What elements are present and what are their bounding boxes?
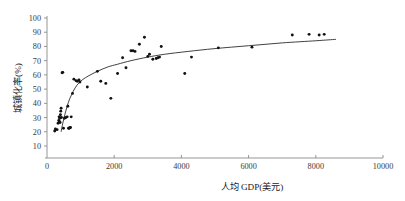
data-point (78, 81, 81, 84)
x-axis-title: 人均 GDP(美元) (221, 181, 284, 192)
data-point (96, 70, 99, 73)
y-tick-label: 100 (29, 14, 41, 23)
x-tick-label: 4000 (173, 162, 189, 171)
y-tick-label: 90 (33, 28, 41, 37)
data-point (291, 34, 294, 37)
data-point (69, 126, 72, 129)
data-point (323, 33, 326, 36)
y-axis-title: 城镇化率(%) (12, 63, 23, 113)
data-point (86, 86, 89, 89)
data-point (66, 115, 69, 118)
data-point (308, 33, 311, 36)
data-point (148, 53, 151, 56)
data-point (66, 105, 69, 108)
y-axis: 102030405060708090100 (29, 14, 47, 158)
data-point (217, 46, 220, 49)
data-point (318, 34, 321, 37)
data-point (183, 72, 186, 75)
y-tick-label: 60 (33, 71, 41, 80)
data-point (143, 36, 146, 39)
x-tick-label: 2000 (106, 162, 122, 171)
y-tick-label: 10 (33, 142, 41, 151)
data-point (121, 56, 124, 59)
scatter-chart: 102030405060708090100 020004000600080001… (0, 0, 405, 201)
data-point (70, 115, 73, 118)
data-point (125, 66, 128, 69)
data-point (251, 46, 254, 49)
y-tick-label: 40 (33, 99, 41, 108)
y-tick-label: 20 (33, 128, 41, 137)
y-tick-label: 70 (33, 57, 41, 66)
data-point (62, 127, 65, 130)
data-point (160, 45, 163, 48)
data-point (109, 97, 112, 100)
fit-curve (61, 39, 336, 131)
data-point (71, 92, 74, 95)
x-tick-label: 10000 (373, 162, 393, 171)
x-axis: 0200040006000800010000 (45, 155, 393, 171)
x-tick-label: 0 (45, 162, 49, 171)
data-point (134, 50, 137, 53)
data-point (61, 71, 64, 74)
y-tick-label: 50 (33, 85, 41, 94)
x-tick-label: 6000 (240, 162, 256, 171)
y-tick-label: 80 (33, 42, 41, 51)
data-point (151, 58, 154, 61)
data-point (59, 110, 62, 113)
data-point (138, 43, 141, 46)
data-point (56, 128, 59, 131)
data-point (59, 121, 62, 124)
data-point (116, 72, 119, 75)
x-tick-label: 8000 (308, 162, 324, 171)
data-point (60, 107, 63, 110)
data-points (53, 33, 325, 133)
data-point (104, 82, 107, 85)
data-point (158, 56, 161, 59)
data-point (190, 56, 193, 59)
data-point (99, 80, 102, 83)
data-point (59, 113, 62, 116)
y-tick-label: 30 (33, 114, 41, 123)
chart-canvas: 102030405060708090100 020004000600080001… (0, 0, 405, 201)
regression-curve (61, 39, 336, 131)
data-point (60, 116, 63, 119)
